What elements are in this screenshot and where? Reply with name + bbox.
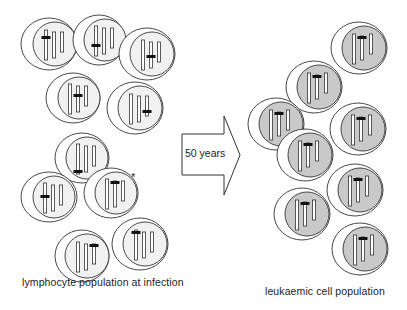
- chromosome: [134, 230, 137, 260]
- chromosome: [359, 117, 362, 141]
- chromosome: [269, 110, 272, 140]
- chromosome: [295, 200, 298, 230]
- chromosome: [303, 202, 306, 226]
- cell: [332, 223, 388, 275]
- cell: [107, 82, 163, 134]
- chromosome: [52, 32, 55, 58]
- chromosome: [84, 244, 87, 270]
- caption-lymphocyte-population: lymphocyte population at infection: [22, 276, 184, 288]
- caption-leukaemic-population: leukaemic cell population: [265, 285, 385, 297]
- cell: [55, 230, 109, 282]
- chromosome: [315, 141, 318, 161]
- cell: [327, 164, 383, 216]
- chromosome: [92, 146, 95, 166]
- cell: [331, 22, 387, 74]
- chromosome: [102, 28, 105, 54]
- chromosome: [286, 110, 289, 130]
- chromosome: [370, 235, 373, 255]
- chromosome: [356, 178, 359, 202]
- chromosome: [360, 36, 363, 60]
- leukaemic-population-group: [248, 22, 388, 275]
- chromosome: [84, 146, 87, 172]
- integration-marker: [74, 170, 83, 173]
- integration-marker: [301, 202, 310, 205]
- chromosome: [137, 96, 140, 122]
- integration-marker: [90, 244, 99, 247]
- chromosome: [68, 84, 71, 114]
- chromosome: [277, 112, 280, 136]
- cell: [274, 188, 330, 240]
- chromosome: [59, 185, 62, 205]
- lymphocyte-population-group: [21, 15, 175, 282]
- integration-marker: [74, 94, 83, 97]
- chromosome: [351, 115, 354, 145]
- chromosome: [44, 30, 47, 60]
- chromosome: [113, 181, 116, 207]
- chromosome: [129, 94, 132, 124]
- integration-marker: [132, 231, 141, 234]
- integration-marker: [304, 143, 313, 146]
- arrow-label: 50 years: [185, 147, 225, 159]
- integration-marker: [143, 110, 152, 113]
- cell: [21, 18, 77, 70]
- chromosome: [121, 181, 124, 201]
- chromosome: [324, 73, 327, 93]
- integration-marker: [42, 36, 51, 39]
- chromosome: [315, 75, 318, 99]
- chromosome: [365, 176, 368, 196]
- integration-marker: [313, 75, 322, 78]
- chromosome: [348, 176, 351, 206]
- integration-marker: [359, 237, 368, 240]
- cell: [73, 15, 126, 65]
- chromosome: [150, 232, 153, 252]
- chromosome: [141, 40, 144, 70]
- cell: [46, 73, 100, 123]
- chromosome: [369, 34, 372, 54]
- chromosome: [298, 141, 301, 171]
- chromosome: [352, 34, 355, 64]
- chromosome: [60, 32, 63, 52]
- chromosome: [76, 242, 79, 272]
- integration-marker: [357, 117, 366, 120]
- chromosome: [76, 86, 79, 112]
- cell: [21, 172, 77, 222]
- chromosome: [306, 143, 309, 167]
- cell: [119, 28, 175, 80]
- chromosome: [76, 144, 79, 174]
- integration-marker: [275, 112, 284, 115]
- integration-marker: [111, 181, 120, 184]
- integration-marker: [358, 36, 367, 39]
- chromosome: [361, 237, 364, 261]
- cell: [330, 103, 386, 155]
- cell: [84, 168, 138, 218]
- integration-marker: [92, 44, 101, 47]
- chromosome: [142, 232, 145, 258]
- chromosome: [312, 200, 315, 220]
- chromosome: [307, 73, 310, 103]
- chromosome: [157, 42, 160, 62]
- cell: [277, 129, 333, 181]
- chromosome: [110, 28, 113, 48]
- chromosome: [368, 115, 371, 135]
- integration-marker: [354, 178, 363, 181]
- integration-marker: [41, 195, 50, 198]
- chromosome: [105, 179, 108, 209]
- chromosome: [51, 185, 54, 211]
- chromosome: [353, 235, 356, 265]
- chromosome: [94, 26, 97, 56]
- integration-marker: [147, 55, 156, 58]
- star-marker: *: [131, 171, 135, 183]
- cell: [112, 218, 168, 270]
- chromosome: [84, 86, 87, 106]
